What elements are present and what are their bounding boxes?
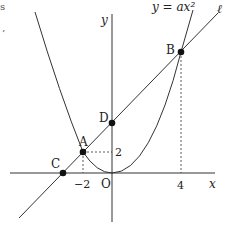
- point-a: [80, 149, 87, 156]
- point-d: [109, 120, 116, 127]
- tick-x-4: 4: [177, 179, 184, 192]
- point-d-label: D: [99, 111, 109, 125]
- point-c-label: C: [51, 157, 60, 171]
- point-b: [178, 49, 185, 56]
- tick-y-2: 2: [115, 146, 122, 159]
- y-axis-label: y: [100, 13, 108, 27]
- point-b-label: B: [166, 43, 175, 57]
- point-a-label: A: [78, 135, 88, 149]
- x-axis-label: x: [209, 177, 216, 191]
- parabola-label: y = ax²: [151, 0, 195, 14]
- point-c: [60, 170, 67, 177]
- origin-label: O: [101, 177, 111, 191]
- coordinate-diagram: s ’ y = ax² ℓ y x O A B C D −2 4 2: [0, 0, 230, 228]
- line-l: [19, 13, 218, 218]
- tick-x-neg2: −2: [74, 178, 90, 191]
- line-l-label: ℓ: [217, 2, 222, 16]
- parabola-curve: [35, 10, 193, 173]
- edge-fragment-mark: ’: [2, 28, 5, 39]
- edge-fragment-text: s: [0, 1, 5, 12]
